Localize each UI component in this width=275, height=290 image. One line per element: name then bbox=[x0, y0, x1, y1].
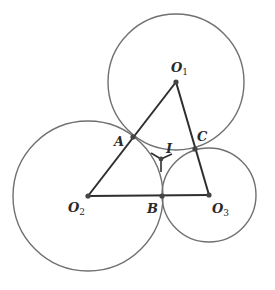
segment-o2-o3 bbox=[88, 195, 209, 196]
point-i bbox=[159, 157, 164, 162]
label-o3: O3 bbox=[212, 201, 229, 218]
label-b: B bbox=[146, 201, 158, 216]
point-a bbox=[130, 134, 135, 139]
diagram-canvas: O1 O2 O3 A B C I bbox=[0, 0, 275, 290]
point-o2 bbox=[85, 193, 90, 198]
geometry-figure: O1 O2 O3 A B C I bbox=[0, 0, 275, 290]
label-o1: O1 bbox=[171, 60, 188, 77]
label-a: A bbox=[112, 134, 124, 149]
label-i: I bbox=[165, 141, 173, 156]
point-b bbox=[159, 193, 164, 198]
point-o1 bbox=[173, 79, 178, 84]
point-c bbox=[192, 146, 197, 151]
point-o3 bbox=[206, 192, 211, 197]
label-c: C bbox=[197, 129, 208, 144]
label-o2: O2 bbox=[68, 200, 85, 217]
